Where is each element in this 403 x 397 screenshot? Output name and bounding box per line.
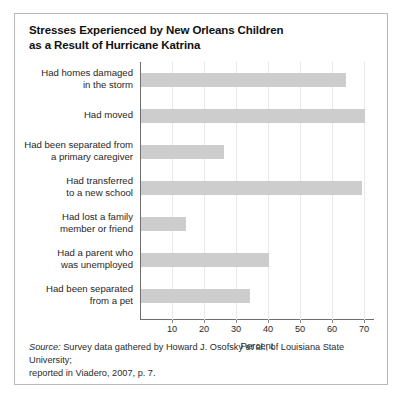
category-label-line: Had been separated from [15, 139, 133, 151]
source-label: Source: [29, 342, 61, 352]
figure-frame: Stresses Experienced by New Orleans Chil… [14, 13, 388, 385]
category-label: Had moved [15, 109, 133, 121]
category-label-line: Had been separated [15, 283, 133, 295]
tick-60 [332, 320, 333, 323]
category-label: Had been separated from a primary caregi… [15, 139, 133, 163]
category-label: Had a parent who was unemployed [15, 247, 133, 271]
chart-title-line-2: as a Result of Hurricane Katrina [29, 38, 359, 53]
xtick-label-70: 70 [349, 324, 379, 334]
bar-row: Had moved [140, 98, 374, 134]
bar-separated-from-caregiver [141, 145, 224, 159]
bar-row: Had been separated from a pet [140, 278, 374, 314]
category-label-line: Had moved [15, 109, 133, 121]
bar-had-moved [141, 109, 365, 123]
xtick-label-50: 50 [285, 324, 315, 334]
xtick-label-20: 20 [189, 324, 219, 334]
category-label-line: Had homes damaged [15, 67, 133, 79]
x-axis-line [140, 319, 374, 320]
category-label-line: Had lost a family [15, 211, 133, 223]
tick-70 [364, 320, 365, 323]
xtick-label-30: 30 [221, 324, 251, 334]
category-label: Had transferred to a new school [15, 175, 133, 199]
category-label: Had lost a family member or friend [15, 211, 133, 235]
bar-parent-unemployed [141, 253, 269, 267]
xtick-label-40: 40 [253, 324, 283, 334]
bar-row: Had homes damaged in the storm [140, 62, 374, 98]
plot-area: Had homes damaged in the storm Had moved… [140, 62, 374, 320]
category-label: Had homes damaged in the storm [15, 67, 133, 91]
tick-10 [172, 320, 173, 323]
tick-20 [204, 320, 205, 323]
bar-separated-from-pet [141, 289, 250, 303]
bar-lost-family-member-or-friend [141, 217, 186, 231]
source-text-line-2: reported in Viadero, 2007, p. 7. [29, 368, 156, 378]
tick-30 [236, 320, 237, 323]
category-label-line: in the storm [15, 79, 133, 91]
category-label: Had been separated from a pet [15, 283, 133, 307]
bar-had-homes-damaged [141, 73, 346, 87]
category-label-line: Had a parent who [15, 247, 133, 259]
chart-title-line-1: Stresses Experienced by New Orleans Chil… [29, 23, 359, 38]
bar-transferred-to-new-school [141, 181, 362, 195]
category-label-line: from a pet [15, 295, 133, 307]
category-label-line: to a new school [15, 187, 133, 199]
chart-title: Stresses Experienced by New Orleans Chil… [29, 23, 359, 53]
source-note: Source: Survey data gathered by Howard J… [29, 341, 373, 380]
tick-40 [268, 320, 269, 323]
tick-50 [300, 320, 301, 323]
bar-row: Had a parent who was unemployed [140, 242, 374, 278]
category-label-line: was unemployed [15, 259, 133, 271]
bar-row: Had lost a family member or friend [140, 206, 374, 242]
category-label-line: Had transferred [15, 175, 133, 187]
xtick-label-60: 60 [317, 324, 347, 334]
category-label-line: member or friend [15, 223, 133, 235]
bar-row: Had transferred to a new school [140, 170, 374, 206]
category-label-line: a primary caregiver [15, 151, 133, 163]
xtick-label-10: 10 [157, 324, 187, 334]
bar-row: Had been separated from a primary caregi… [140, 134, 374, 170]
source-text-line-1: Survey data gathered by Howard J. Osofsk… [29, 342, 344, 365]
